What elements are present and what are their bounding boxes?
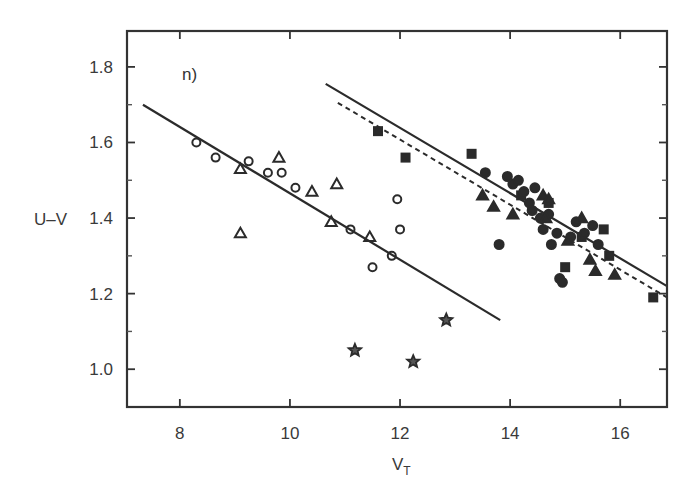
y-tick-label: 1.6: [89, 133, 113, 152]
circle-marker: [369, 263, 377, 271]
square-marker: [402, 154, 410, 162]
circle-marker: [558, 278, 567, 287]
triangle-marker: [273, 152, 284, 162]
x-tick-label: 10: [280, 424, 299, 443]
circle-marker: [495, 240, 504, 249]
triangle-marker: [590, 265, 601, 275]
square-marker: [561, 263, 569, 271]
circle-marker: [264, 169, 272, 177]
circle-marker: [212, 154, 220, 162]
y-tick-label: 1.4: [89, 209, 113, 228]
y-axis-label: U–V: [34, 210, 68, 229]
open-circles-series: [192, 138, 404, 271]
star-marker: [349, 344, 361, 356]
triangle-marker: [331, 179, 342, 189]
x-axis-label-main: V: [392, 455, 404, 474]
triangle-marker: [576, 213, 587, 223]
circle-marker: [547, 240, 556, 249]
circle-marker: [278, 169, 286, 177]
y-tick-label: 1.8: [89, 58, 113, 77]
y-tick-label: 1.0: [89, 360, 113, 379]
x-tick-label: 8: [175, 424, 184, 443]
circle-marker: [245, 157, 253, 165]
circle-marker: [396, 225, 404, 233]
circle-marker: [580, 229, 589, 238]
triangle-marker: [306, 186, 317, 196]
triangle-marker: [235, 228, 246, 238]
triangle-marker: [609, 269, 620, 279]
star-marker: [440, 314, 452, 326]
x-axis-label: VT: [392, 455, 411, 478]
triangle-marker: [488, 201, 499, 211]
square-marker: [649, 293, 657, 301]
scatter-chart: 810121416 1.01.21.41.61.8 n) U–V VT: [0, 0, 698, 498]
x-tick-label: 14: [501, 424, 520, 443]
triangle-marker: [507, 209, 518, 219]
square-marker: [605, 252, 613, 260]
y-tick-label: 1.2: [89, 285, 113, 304]
circle-marker: [519, 187, 528, 196]
x-axis-label-subscript: T: [403, 464, 411, 478]
square-marker: [600, 225, 608, 233]
circle-marker: [588, 221, 597, 230]
circle-marker: [393, 195, 401, 203]
triangle-marker: [326, 216, 337, 226]
circle-marker: [291, 184, 299, 192]
circle-marker: [530, 183, 539, 192]
square-marker: [468, 150, 476, 158]
faint-sequence-fit-line: [326, 84, 667, 286]
faint-sequence-fit-alt-line: [338, 103, 667, 298]
triangle-marker: [364, 231, 375, 241]
open-stars-series: [349, 314, 453, 367]
panel-label: n): [182, 65, 197, 84]
plot-area: [143, 84, 667, 367]
circle-marker: [552, 229, 561, 238]
circle-marker: [539, 225, 548, 234]
star-marker: [407, 355, 419, 367]
circle-marker: [481, 168, 490, 177]
bright-sequence-fit-line: [143, 105, 500, 320]
triangle-marker: [584, 254, 595, 264]
x-tick-label: 16: [611, 424, 630, 443]
square-marker: [374, 127, 382, 135]
circle-marker: [514, 176, 523, 185]
circle-marker: [528, 206, 537, 215]
circle-marker: [594, 240, 603, 249]
circle-marker: [192, 138, 200, 146]
x-tick-label: 12: [391, 424, 410, 443]
